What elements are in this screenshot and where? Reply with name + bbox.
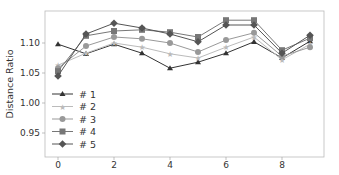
svg-text:# 2: # 2 [79,101,96,112]
y-tick-label: 1.10 [20,38,40,48]
svg-text:★: ★ [110,39,117,48]
line-chart: 0.951.001.051.10 02468 Distance Ratio ★★… [0,0,339,175]
y-tick-label: 1.00 [20,98,40,108]
svg-text:★: ★ [166,50,173,59]
x-tick-label: 8 [279,160,285,170]
x-tick-label: 2 [111,160,117,170]
svg-text:# 4: # 4 [79,126,96,137]
svg-text:★: ★ [194,54,201,63]
svg-text:# 3: # 3 [79,114,96,125]
svg-text:★: ★ [222,43,229,52]
svg-text:★: ★ [82,49,89,58]
x-axis-ticks: 02468 [55,157,285,170]
svg-text:# 1: # 1 [79,89,96,100]
x-tick-label: 4 [167,160,173,170]
svg-text:★: ★ [59,103,66,112]
svg-text:★: ★ [138,43,145,52]
y-axis-label: Distance Ratio [4,49,15,118]
x-tick-label: 6 [223,160,229,170]
y-tick-label: 1.05 [20,68,40,78]
y-tick-label: 0.95 [20,128,40,138]
svg-text:# 5: # 5 [79,139,96,150]
y-axis-ticks: 0.951.001.051.10 [20,38,45,138]
x-tick-label: 0 [55,160,61,170]
